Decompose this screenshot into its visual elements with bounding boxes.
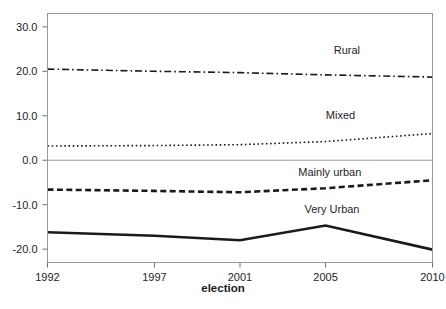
x-tick-label: 2001 bbox=[228, 271, 252, 283]
series-label-mainly-urban: Mainly urban bbox=[298, 166, 361, 178]
y-tick-label: 30.0 bbox=[16, 21, 37, 33]
y-tick-label: -20.0 bbox=[12, 243, 37, 255]
line-chart: 30.020.010.00.0-10.0-20.0 19921997200120… bbox=[0, 0, 446, 309]
y-tick-label: 10.0 bbox=[16, 110, 37, 122]
x-tick-label: 2005 bbox=[313, 271, 337, 283]
series-label-mixed: Mixed bbox=[326, 109, 355, 121]
y-tick-label: 20.0 bbox=[16, 65, 37, 77]
chart-container: 30.020.010.00.0-10.0-20.0 19921997200120… bbox=[0, 0, 446, 309]
series-label-rural: Rural bbox=[334, 44, 360, 56]
x-tick-label: 1997 bbox=[142, 271, 166, 283]
x-tick-label: 1992 bbox=[35, 271, 59, 283]
y-tick-label: -10.0 bbox=[12, 199, 37, 211]
x-tick-label: 2010 bbox=[420, 271, 444, 283]
series-label-very-urban: Very Urban bbox=[304, 203, 359, 215]
x-axis-title: election bbox=[201, 282, 244, 294]
y-tick-label: 0.0 bbox=[22, 154, 37, 166]
